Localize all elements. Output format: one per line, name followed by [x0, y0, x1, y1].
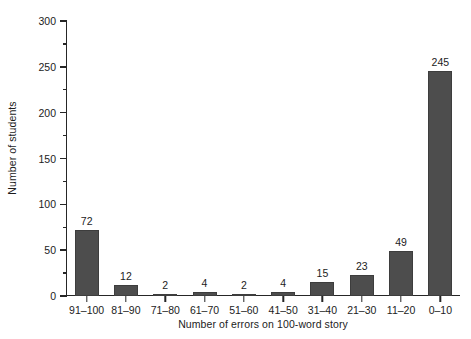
bar[interactable]	[114, 285, 138, 296]
bar-value-label: 12	[120, 270, 132, 282]
bar[interactable]	[350, 275, 374, 296]
y-axis-tick-label: 0	[50, 290, 56, 302]
x-axis-tick-label: 91–100	[69, 304, 104, 316]
y-axis-tick-label: 150	[38, 153, 56, 165]
y-axis-tick-label: 250	[38, 61, 56, 73]
bar-value-label: 4	[280, 277, 286, 289]
bar-group: 49	[381, 21, 420, 296]
bar-group: 2	[224, 21, 263, 296]
bar-chart: Number of students 050100150200250300 72…	[0, 0, 471, 339]
bar[interactable]	[389, 251, 413, 296]
bar-group: 4	[264, 21, 303, 296]
x-axis-tick	[125, 296, 126, 302]
y-axis-tick-label: 300	[38, 15, 56, 27]
bar-value-label: 4	[202, 277, 208, 289]
y-axis: 050100150200250300	[0, 0, 67, 339]
x-axis-tick-label: 71–80	[151, 304, 180, 316]
x-axis-tick	[243, 296, 244, 302]
x-axis-tick-label: 31–40	[308, 304, 337, 316]
bar-value-label: 245	[432, 56, 450, 68]
bar-value-label: 23	[356, 260, 368, 272]
x-axis-tick-label: 41–50	[269, 304, 298, 316]
bar[interactable]	[75, 230, 99, 296]
x-axis-tick-label: 0–10	[429, 304, 452, 316]
bar-group: 72	[67, 21, 106, 296]
x-axis-tick	[282, 296, 283, 302]
y-axis-tick-label: 200	[38, 107, 56, 119]
bar-group: 23	[342, 21, 381, 296]
x-axis-tick-label: 81–90	[111, 304, 140, 316]
x-axis-tick-label: 61–70	[190, 304, 219, 316]
bar[interactable]	[310, 282, 334, 296]
x-axis-tick	[440, 296, 441, 302]
x-axis-title: Number of errors on 100-word story	[66, 318, 460, 330]
x-axis-tick-label: 11–20	[387, 304, 415, 316]
x-axis-tick	[322, 296, 323, 302]
y-axis-tick-label: 50	[44, 244, 56, 256]
x-axis-tick	[86, 296, 87, 302]
bar-value-label: 15	[317, 267, 329, 279]
plot-area: 72122424152349245	[67, 21, 460, 296]
x-axis-tick-label: 21–30	[347, 304, 376, 316]
bar[interactable]	[428, 71, 452, 296]
x-axis-tick-label: 51–60	[229, 304, 258, 316]
bar-group: 12	[106, 21, 145, 296]
bar-group: 245	[421, 21, 460, 296]
bar-group: 15	[303, 21, 342, 296]
bar-value-label: 2	[162, 279, 168, 291]
bar-value-label: 49	[395, 236, 407, 248]
x-axis-tick	[204, 296, 205, 302]
y-axis-tick-label: 100	[38, 198, 56, 210]
bar-value-label: 2	[241, 279, 247, 291]
bar-group: 2	[146, 21, 185, 296]
x-axis-tick	[165, 296, 166, 302]
bar-group: 4	[185, 21, 224, 296]
bar-value-label: 72	[81, 215, 93, 227]
x-axis-tick	[400, 296, 401, 302]
x-axis-title-text: Number of errors on 100-word story	[178, 318, 348, 330]
x-axis-tick	[361, 296, 362, 302]
